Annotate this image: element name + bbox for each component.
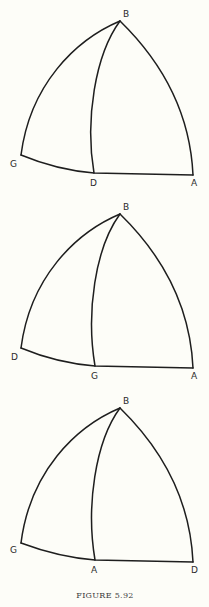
label-foot: D <box>90 178 97 188</box>
label-apex: B <box>123 9 129 19</box>
label-right: D <box>191 565 198 575</box>
arc-right-side <box>120 408 193 562</box>
arc-base <box>21 543 193 562</box>
figure-caption: FIGURE 5.92 <box>76 591 133 600</box>
arc-left-side <box>21 21 120 155</box>
arc-median <box>92 408 120 560</box>
arc-median <box>91 21 120 173</box>
label-right: A <box>191 371 198 381</box>
spherical-triangle-figure: B G D A B D G A B G A D FIGURE 5.92 <box>0 0 209 607</box>
label-foot: G <box>91 371 98 381</box>
label-apex: B <box>123 396 129 406</box>
label-left: D <box>11 352 18 362</box>
arc-left-side <box>21 408 120 543</box>
diagram-canvas: B G D A B D G A B G A D FIGURE 5.92 <box>0 0 209 607</box>
arc-base <box>21 348 193 368</box>
panel-2-spherical-triangle: B D G A <box>11 202 198 381</box>
label-left: G <box>10 159 17 169</box>
label-foot: A <box>91 565 98 575</box>
arc-right-side <box>120 21 193 175</box>
arc-left-side <box>21 214 120 348</box>
panel-1-spherical-triangle: B G D A <box>10 9 198 188</box>
label-right: A <box>191 178 198 188</box>
label-apex: B <box>123 202 129 212</box>
panel-3-spherical-triangle: B G A D <box>10 396 198 575</box>
arc-base <box>21 155 193 175</box>
arc-right-side <box>120 214 193 368</box>
arc-median <box>92 214 120 366</box>
label-left: G <box>10 545 17 555</box>
